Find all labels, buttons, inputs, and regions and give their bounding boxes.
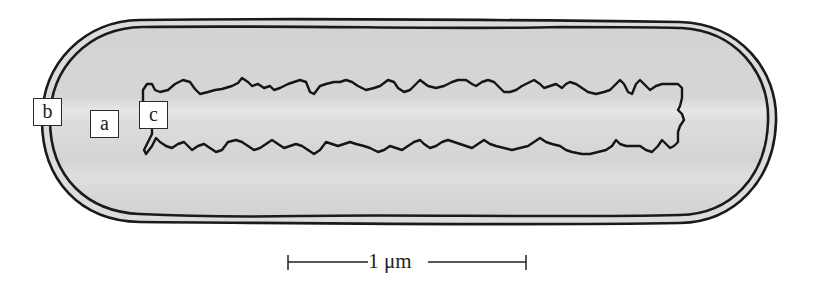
- label-c-text: c: [149, 104, 158, 124]
- label-c-nucleoid: c: [139, 101, 168, 129]
- label-b-text: b: [43, 101, 53, 121]
- label-a-text: a: [100, 113, 109, 133]
- label-b-cell-wall: b: [33, 98, 62, 126]
- scale-bar-label: 1 μm: [358, 249, 422, 274]
- label-a-cytoplasm: a: [90, 110, 119, 138]
